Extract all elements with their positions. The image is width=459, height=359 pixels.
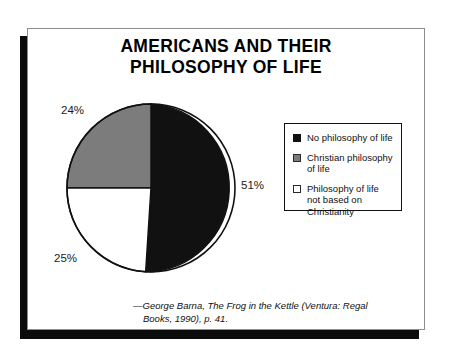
chart-title-line-2: PHILOSOPHY OF LIFE — [27, 57, 425, 78]
legend-label-christian-philosophy-of-life: Christian philosophy of life — [307, 152, 394, 175]
pie-label-24-percent: 24% — [61, 104, 84, 116]
source-citation: —George Barna, The Frog in the Kettle (V… — [133, 300, 383, 325]
legend-swatch-white — [293, 185, 301, 193]
source-citation-line-2: Books, 1990), p. 41. — [133, 313, 383, 326]
legend-label-philosophy-not-based-on-christianity: Philosophy of life not based on Christia… — [307, 183, 394, 218]
chart-legend: No philosophy of life Christian philosop… — [284, 123, 402, 211]
legend-item-philosophy-not-based-on-christianity: Philosophy of life not based on Christia… — [293, 183, 394, 218]
legend-item-christian-philosophy-of-life: Christian philosophy of life — [293, 152, 394, 175]
figure-root: AMERICANS AND THEIR PHILOSOPHY OF LIFE 2… — [0, 0, 459, 359]
pie-chart — [66, 103, 236, 273]
pie-slice-no-philosophy-of-life — [146, 104, 230, 272]
source-citation-line-1: —George Barna, The Frog in the Kettle (V… — [133, 300, 368, 311]
chart-title: AMERICANS AND THEIR PHILOSOPHY OF LIFE — [27, 36, 425, 78]
legend-item-no-philosophy-of-life: No philosophy of life — [293, 132, 394, 144]
legend-swatch-black — [293, 134, 301, 142]
pie-label-25-percent: 25% — [54, 252, 77, 264]
legend-swatch-gray — [293, 154, 301, 162]
pie-slice-christian-philosophy-of-life — [67, 104, 151, 188]
pie-label-51-percent: 51% — [241, 179, 264, 191]
pie-slice-philosophy-not-based-on-christianity — [67, 188, 151, 272]
legend-label-no-philosophy-of-life: No philosophy of life — [307, 132, 393, 144]
chart-title-line-1: AMERICANS AND THEIR — [27, 36, 425, 57]
